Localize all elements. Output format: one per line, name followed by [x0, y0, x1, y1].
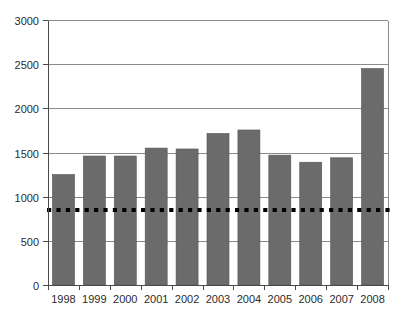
y-tick-label-2500: 2500	[15, 59, 39, 71]
bar-2002	[176, 149, 198, 285]
y-tick-label-500: 500	[21, 236, 39, 248]
y-tick-label-0: 0	[33, 280, 39, 292]
bar-2004	[238, 130, 260, 285]
x-tick-label-2003: 2003	[206, 293, 230, 305]
bars-group	[52, 69, 383, 285]
bar-2005	[269, 155, 291, 285]
bar-2000	[114, 156, 136, 285]
y-tick-label-1500: 1500	[15, 148, 39, 160]
y-axis-tick-labels: 050010001500200025003000	[15, 15, 39, 292]
y-tick-label-3000: 3000	[15, 15, 39, 27]
bar-2008	[362, 69, 384, 285]
bar-2007	[331, 158, 353, 285]
y-tick-label-1000: 1000	[15, 192, 39, 204]
bar-chart: 050010001500200025003000 199819992000200…	[0, 0, 394, 320]
x-tick-label-2004: 2004	[237, 293, 261, 305]
bar-1999	[83, 156, 105, 285]
bar-2001	[145, 148, 167, 285]
x-tick-label-1999: 1999	[82, 293, 106, 305]
y-tick-label-2000: 2000	[15, 103, 39, 115]
x-tick-label-1998: 1998	[51, 293, 75, 305]
x-tick-label-2001: 2001	[144, 293, 168, 305]
x-tick-label-2008: 2008	[360, 293, 384, 305]
x-tick-label-2005: 2005	[268, 293, 292, 305]
bar-2006	[300, 162, 322, 285]
x-tick-label-2002: 2002	[175, 293, 199, 305]
x-tick-label-2007: 2007	[329, 293, 353, 305]
bar-1998	[52, 175, 74, 285]
x-axis-tick-labels: 1998199920002001200220032004200520062007…	[51, 293, 385, 305]
x-tick-label-2006: 2006	[298, 293, 322, 305]
chart-canvas: 050010001500200025003000 199819992000200…	[0, 0, 394, 320]
x-tick-label-2000: 2000	[113, 293, 137, 305]
